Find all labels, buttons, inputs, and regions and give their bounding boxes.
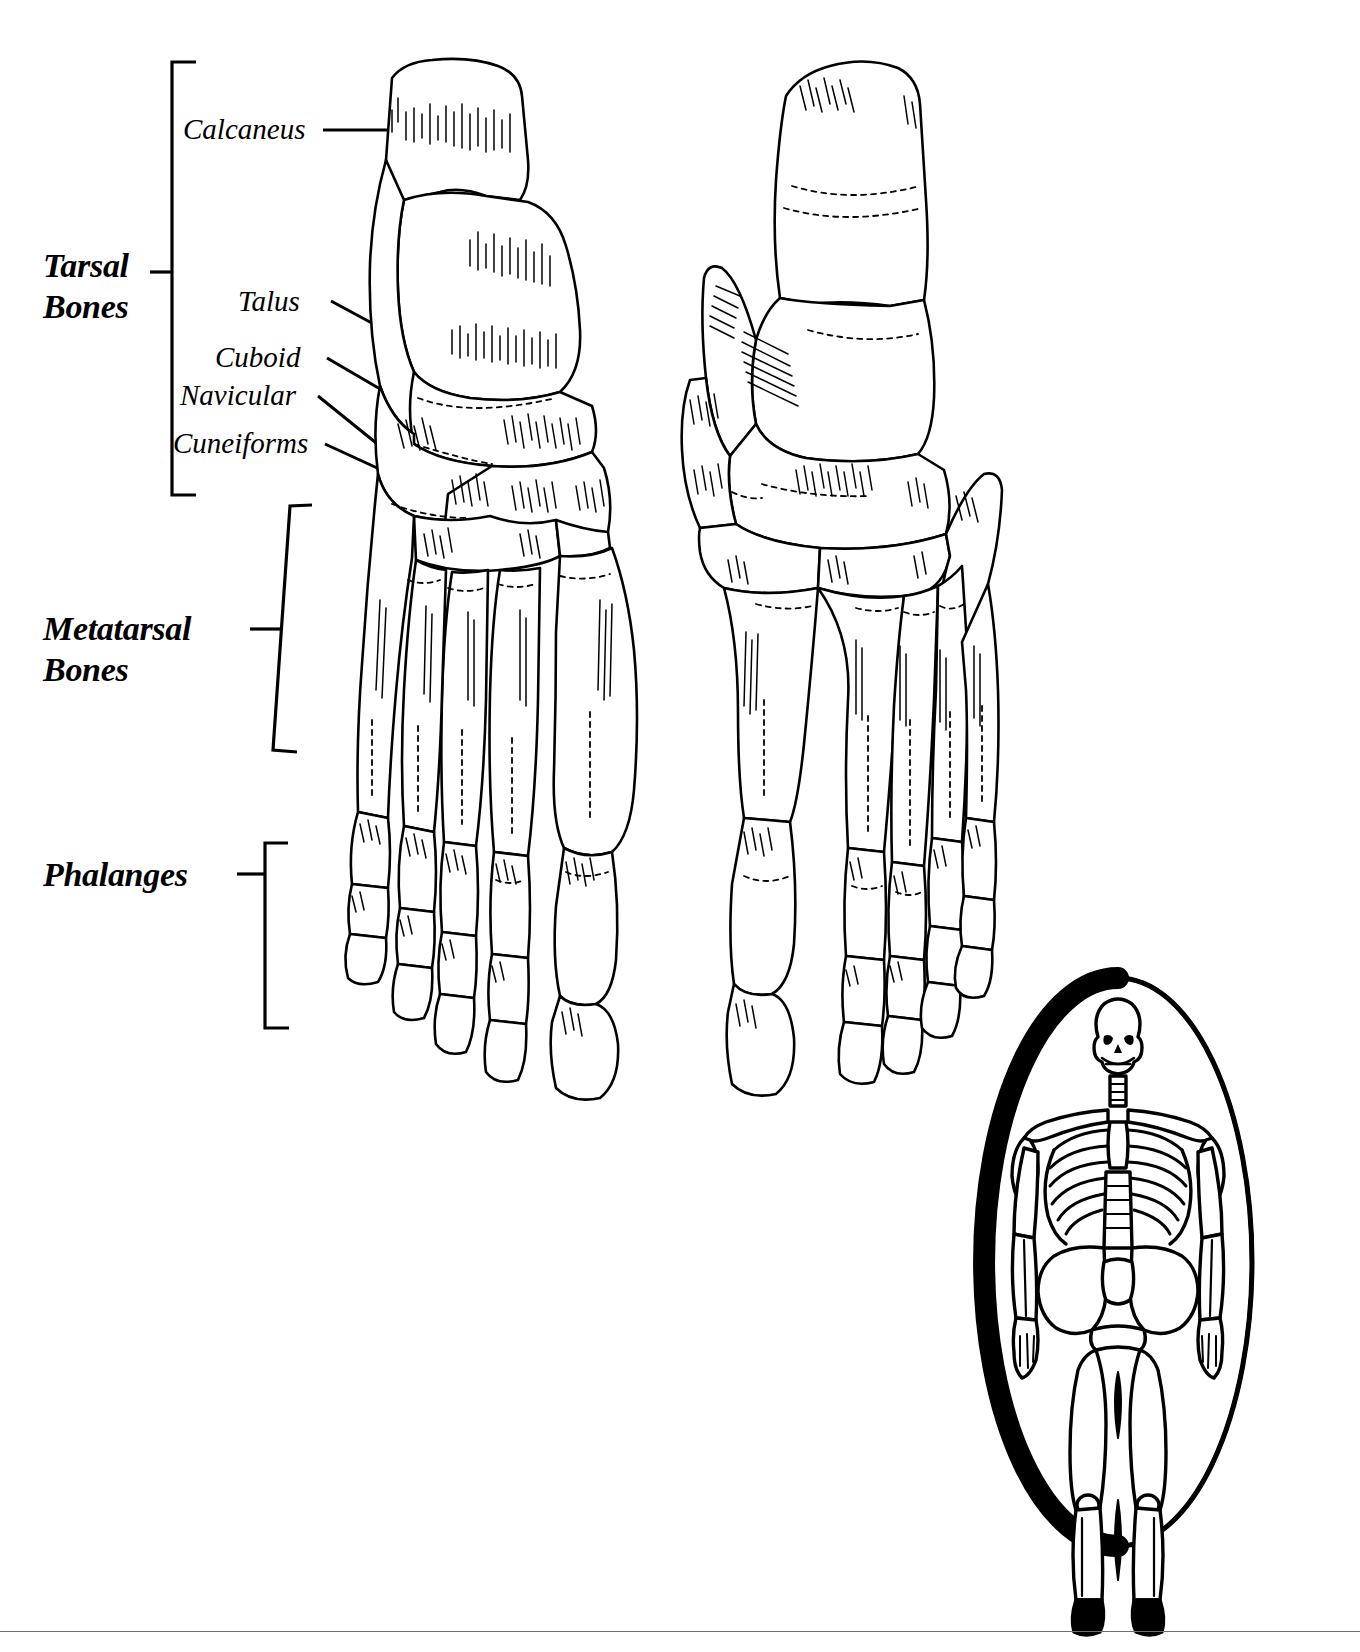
middle-phalanx-5-right	[960, 896, 994, 950]
middle-phalanx-4-left	[396, 908, 434, 968]
metatarsal-1-left	[554, 548, 637, 855]
lower-leg-left	[1073, 1508, 1103, 1600]
pelvis-left	[1038, 1247, 1106, 1334]
middle-phalanx-2-left	[488, 954, 528, 1024]
bone-calcaneus-left	[386, 59, 528, 200]
category-label-metatarsal: Metatarsal Bones	[42, 610, 192, 688]
distal-phalanx-3-right	[883, 1016, 923, 1074]
metatarsal-3-left	[441, 570, 488, 846]
distal-phalanx-4-right	[921, 982, 960, 1038]
middle-phalanx-2-right	[842, 956, 884, 1026]
bracket-metatarsal	[250, 505, 312, 752]
middle-phalanx-3-right	[886, 956, 924, 1020]
left-foot-skeleton	[345, 59, 637, 1100]
bone-label-calcaneus: Calcaneus	[183, 113, 305, 145]
pelvic-inlet-gap	[1115, 1372, 1121, 1438]
right-foot-skeleton	[682, 61, 1002, 1095]
distal-phalanx-5-left	[345, 934, 386, 984]
bracket-phalanges	[237, 843, 289, 1028]
distal-phalanx-5-right	[955, 946, 992, 998]
distal-phalanx-1-right	[727, 984, 795, 1096]
femur-right	[1130, 1350, 1166, 1510]
clavicle-right	[1128, 1110, 1212, 1141]
metatarsal-1-right	[724, 588, 818, 822]
lumbar-spine	[1104, 1172, 1132, 1248]
skeleton-figure	[1012, 999, 1224, 1635]
proximal-phalanx-5-left	[351, 812, 390, 888]
bone-label-talus: Talus	[238, 285, 300, 317]
middle-phalanx-5-left	[348, 884, 388, 938]
foot-right	[1132, 1600, 1163, 1635]
leg-gap	[1115, 1500, 1121, 1580]
pubis	[1091, 1326, 1146, 1350]
femur-left	[1070, 1350, 1106, 1510]
figure-page: Tarsal Bones Metatarsal Bones Phalanges …	[0, 0, 1360, 1652]
category-phalanges-line1: Phalanges	[42, 856, 188, 893]
bone-label-navicular: Navicular	[179, 379, 297, 411]
distal-phalanx-3-left	[435, 994, 475, 1054]
metatarsal-4-right	[932, 566, 968, 842]
sacrum	[1102, 1259, 1133, 1304]
lower-leg-right	[1133, 1508, 1163, 1600]
distal-phalanx-1-left	[551, 996, 619, 1100]
middle-phalanx-3-left	[438, 932, 476, 998]
bone-label-cuneiforms: Cuneiforms	[173, 427, 308, 459]
bone-talus-left	[398, 193, 581, 400]
bone-label-cuboid: Cuboid	[215, 341, 301, 373]
sternum	[1108, 1122, 1128, 1168]
proximal-phalanx-4-left	[399, 826, 436, 912]
category-tarsal-line2: Bones	[42, 288, 128, 325]
metatarsal-4-left	[402, 560, 446, 832]
category-label-tarsal: Tarsal Bones	[42, 247, 130, 325]
clavicle-left	[1024, 1110, 1108, 1141]
distal-phalanx-2-left	[485, 1020, 527, 1082]
page-bottom-rule	[0, 1631, 1360, 1632]
category-metatarsal-line2: Bones	[42, 651, 128, 688]
metatarsal-2-left	[490, 568, 541, 856]
category-tarsal-line1: Tarsal	[43, 247, 130, 284]
distal-phalanx-2-right	[839, 1022, 883, 1084]
category-metatarsal-line1: Metatarsal	[42, 610, 192, 647]
skeleton-inset	[984, 978, 1252, 1635]
proximal-phalanx-1-right	[730, 818, 795, 995]
foot-bones-figure: Tarsal Bones Metatarsal Bones Phalanges …	[0, 0, 1360, 1652]
foot-left	[1072, 1600, 1103, 1635]
distal-phalanx-4-left	[393, 964, 433, 1020]
category-label-phalanges: Phalanges	[42, 856, 188, 893]
pelvis-right	[1130, 1247, 1198, 1334]
